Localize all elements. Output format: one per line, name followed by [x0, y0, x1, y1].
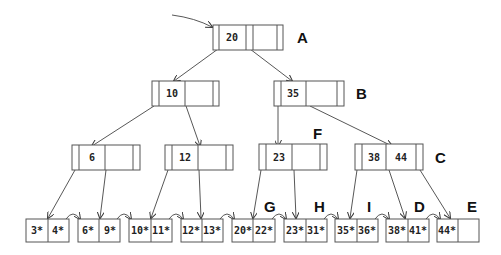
edge-12-to-leaf4 — [199, 170, 201, 218]
node-label-A: A — [297, 29, 308, 46]
internal-node-12: 12 — [165, 145, 233, 170]
leaf-node-1: 3* 4* — [26, 219, 69, 242]
leaf-node-D: 44* — [437, 219, 479, 242]
node-key: 38 — [368, 152, 380, 163]
edge-C-to-leaf7 — [350, 170, 357, 218]
leaf-label-I: I — [367, 198, 371, 215]
node-label-C: C — [435, 149, 446, 166]
internal-node-6: 6 — [72, 145, 140, 170]
b-plus-tree-diagram: 20 A 10 35 B 6 12 23 — [0, 0, 501, 255]
leaf-label-D: D — [414, 198, 425, 215]
node-key: 35 — [287, 88, 299, 99]
leaf-entry: 41* — [409, 225, 427, 236]
leaf-node-4: 12* 13* — [181, 219, 223, 242]
node-key: 23 — [273, 152, 285, 163]
internal-node-B: 35 — [274, 81, 344, 106]
leaf-entry: 20* — [234, 225, 252, 236]
edge-6-to-leaf2 — [100, 170, 106, 218]
edge-B-to-C — [310, 106, 392, 146]
node-label-B: B — [356, 85, 367, 102]
node-key: 44 — [395, 152, 407, 163]
leaf-entry: 22* — [255, 225, 273, 236]
leaf-node-2: 6* 9* — [78, 219, 120, 242]
leaf-entry: 11* — [152, 225, 170, 236]
internal-node-A: 20 — [213, 25, 283, 50]
internal-node-10: 10 — [152, 81, 219, 106]
leaf-entry: 36* — [358, 225, 376, 236]
leaf-entry: 6* — [82, 225, 94, 236]
node-key: 12 — [179, 152, 191, 163]
leaf-entry: 44* — [438, 225, 456, 236]
leaf-entry: 23* — [286, 225, 304, 236]
edge-A-to-10 — [174, 49, 218, 81]
leaf-entry: 12* — [182, 225, 200, 236]
edge-10-to-6 — [92, 106, 154, 146]
edge-F-to-leaf5 — [253, 170, 261, 218]
node-key: 10 — [166, 88, 178, 99]
leaf-label-E: E — [467, 198, 477, 215]
leaf-node-G: 23* 31* — [284, 219, 327, 242]
node-key: 6 — [89, 152, 95, 163]
edge-F-to-leaf6 — [294, 170, 296, 218]
leaf-node-H: 35* 36* — [335, 219, 378, 242]
leaf-entry: 38* — [388, 225, 406, 236]
leaf-entry: 35* — [337, 225, 355, 236]
edge-A-to-B — [250, 49, 292, 81]
leaf-entry: 3* — [31, 225, 43, 236]
leaf-entry: 9* — [104, 225, 116, 236]
internal-node-F: 23 — [259, 144, 327, 170]
leaf-node-5: 20* 22* — [232, 219, 275, 242]
node-label-F: F — [313, 125, 322, 142]
edge-10-to-12 — [186, 106, 200, 146]
edge-12-to-leaf3 — [151, 170, 168, 218]
leaf-entry: 4* — [52, 225, 64, 236]
leaf-entry: 31* — [307, 225, 325, 236]
leaf-entry: 13* — [203, 225, 221, 236]
node-key: 20 — [226, 32, 238, 43]
leaf-label-H: H — [314, 198, 325, 215]
edge-C-to-leaf8 — [389, 170, 405, 218]
edge-6-to-leaf1 — [48, 170, 75, 218]
leaf-node-3: 10* 11* — [129, 219, 172, 242]
internal-node-C: 38 44 — [355, 144, 423, 170]
leaf-label-G: G — [264, 198, 276, 215]
root-pointer-arrow — [172, 15, 212, 27]
leaf-node-I: 38* 41* — [386, 219, 429, 242]
leaf-entry: 10* — [131, 225, 149, 236]
